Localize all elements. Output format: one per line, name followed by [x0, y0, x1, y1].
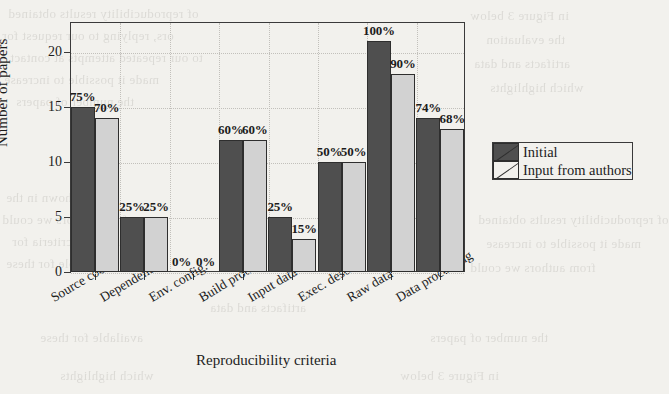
y-axis-label: Number of papers — [0, 39, 11, 147]
bar-value-label: 0% — [196, 254, 215, 270]
bar-value-label: 74% — [416, 100, 441, 116]
bar-value-label: 60% — [242, 122, 267, 138]
gridline — [71, 273, 464, 274]
legend-label: Input from authors — [519, 163, 632, 178]
bar — [243, 140, 267, 272]
y-tick-label: 10 — [34, 155, 62, 169]
y-tick-label: 5 — [34, 210, 62, 224]
bar — [342, 162, 366, 272]
bar — [416, 118, 440, 272]
bar — [120, 217, 144, 272]
bar — [367, 41, 391, 272]
bar-value-label: 60% — [218, 122, 243, 138]
bar-value-label: 70% — [94, 100, 119, 116]
dark-hatched-swatch — [493, 143, 519, 161]
bar — [268, 217, 292, 272]
chart-legend: Initial Input from authors — [492, 142, 633, 180]
bar-value-label: 90% — [390, 56, 415, 72]
bar-value-label: 75% — [70, 89, 95, 105]
bar — [95, 118, 119, 272]
bar-value-label: 25% — [267, 199, 292, 215]
bar-value-label: 15% — [291, 221, 316, 237]
bar — [318, 162, 342, 272]
legend-entry-initial: Initial — [493, 143, 632, 161]
bar-value-label: 25% — [119, 199, 144, 215]
bar-value-label: 50% — [341, 144, 366, 160]
bar-value-label: 100% — [363, 23, 395, 39]
x-axis-label: Reproducibility criteria — [196, 352, 336, 369]
bar — [440, 129, 464, 272]
bar — [144, 217, 168, 272]
y-tick-label: 20 — [34, 45, 62, 59]
bar-value-label: 0% — [172, 254, 191, 270]
y-tick-mark — [64, 272, 71, 273]
bar-value-label: 68% — [440, 111, 465, 127]
bar-value-label: 50% — [317, 144, 342, 160]
y-tick-label: 15 — [34, 100, 62, 114]
legend-label: Initial — [519, 145, 558, 160]
bar — [71, 107, 95, 272]
bar — [292, 239, 316, 272]
bar — [219, 140, 243, 272]
gridline — [170, 23, 171, 271]
legend-entry-authors: Input from authors — [493, 161, 632, 179]
bar — [391, 74, 415, 272]
y-tick-label: 0 — [34, 265, 62, 279]
gridline — [71, 53, 464, 54]
light-hatched-swatch — [493, 161, 519, 179]
bar-value-label: 25% — [143, 199, 168, 215]
